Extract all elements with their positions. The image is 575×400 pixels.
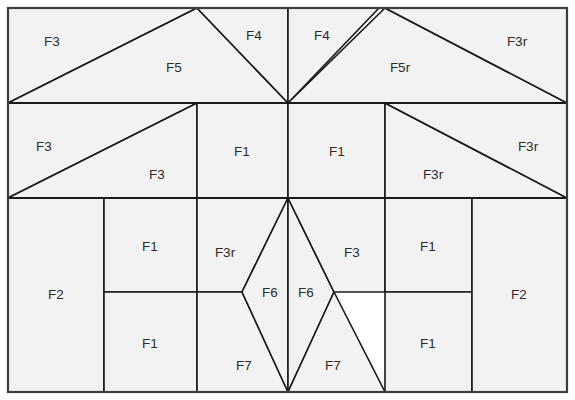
piece-label-bot-F6-left: F6: [262, 285, 278, 300]
piece-label-top-F4-left: F4: [246, 28, 262, 43]
piece-label-bot-F7-right: F7: [325, 358, 341, 373]
piece-label-bot-F3-inner: F3: [344, 245, 360, 260]
piece-label-bot-F3r-inner: F3r: [215, 245, 236, 260]
piece-label-bot-F6-right: F6: [298, 285, 314, 300]
piece-label-top-F5r-right: F5r: [390, 60, 411, 75]
piece-label-bot-F2-right: F2: [511, 287, 527, 302]
piece-label-mid-F3-lower: F3: [149, 167, 165, 182]
pattern-pieces-layer: [8, 8, 567, 392]
pattern-canvas: F3F5F4F4F5rF3rF3F3F1F1F3rF3rF2F1F1F3rF7F…: [0, 0, 575, 400]
piece-label-bot-F1-right-bot: F1: [420, 336, 436, 351]
piece-label-mid-F3r-lower: F3r: [423, 167, 444, 182]
piece-label-top-F3-left: F3: [44, 34, 60, 49]
piece-label-mid-F1-left: F1: [234, 144, 250, 159]
piece-label-mid-F3-left: F3: [36, 139, 52, 154]
piece-label-bot-F7-left: F7: [236, 358, 252, 373]
piece-label-top-F5-left: F5: [166, 60, 182, 75]
piece-label-mid-F1-right: F1: [329, 144, 345, 159]
piece-label-mid-F3r-right: F3r: [518, 139, 539, 154]
piece-label-top-F3r-right: F3r: [507, 34, 528, 49]
piece-label-bot-F2-left: F2: [48, 287, 64, 302]
piece-label-top-F4-right: F4: [314, 28, 330, 43]
piece-label-bot-F1-left-bot: F1: [142, 336, 158, 351]
quilt-pattern-diagram: F3F5F4F4F5rF3rF3F3F1F1F3rF3rF2F1F1F3rF7F…: [0, 0, 575, 400]
piece-label-bot-F1-left-top: F1: [142, 239, 158, 254]
piece-label-bot-F1-right-top: F1: [420, 239, 436, 254]
